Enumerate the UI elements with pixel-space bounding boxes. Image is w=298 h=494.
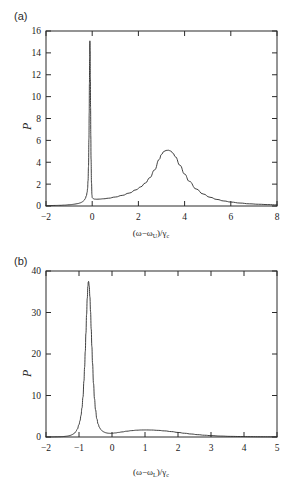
data-curve — [46, 281, 277, 437]
panel-a-x-axis-label: (ω−ωU)/γc — [96, 228, 206, 239]
panel-b: (b) P −2−1012345010203040 (ω−ωL)/γc — [0, 247, 298, 494]
panel-a-plot: −2024680246810121416 — [0, 0, 298, 247]
svg-text:2: 2 — [176, 443, 181, 453]
svg-text:0: 0 — [110, 443, 115, 453]
svg-text:1: 1 — [143, 443, 148, 453]
data-curve — [46, 41, 277, 206]
svg-text:12: 12 — [32, 70, 42, 80]
svg-text:8: 8 — [36, 114, 41, 124]
svg-text:4: 4 — [182, 212, 187, 222]
svg-text:30: 30 — [32, 308, 42, 318]
svg-text:0: 0 — [36, 201, 41, 211]
svg-text:10: 10 — [32, 92, 42, 102]
svg-text:10: 10 — [32, 391, 42, 401]
svg-text:8: 8 — [275, 212, 280, 222]
svg-text:16: 16 — [32, 26, 42, 36]
svg-text:3: 3 — [209, 443, 214, 453]
svg-text:0: 0 — [90, 212, 95, 222]
svg-text:6: 6 — [228, 212, 233, 222]
svg-text:5: 5 — [275, 443, 280, 453]
panel-b-plot: −2−1012345010203040 — [0, 247, 298, 494]
svg-text:40: 40 — [32, 266, 42, 276]
svg-text:−2: −2 — [41, 443, 51, 453]
svg-text:2: 2 — [36, 180, 41, 190]
svg-text:4: 4 — [242, 443, 247, 453]
svg-text:6: 6 — [36, 136, 41, 146]
svg-text:14: 14 — [32, 48, 42, 58]
svg-text:−1: −1 — [74, 443, 84, 453]
svg-text:4: 4 — [36, 158, 41, 168]
svg-text:2: 2 — [136, 212, 141, 222]
panel-b-x-axis-label: (ω−ωL)/γc — [96, 467, 206, 478]
svg-text:20: 20 — [32, 349, 42, 359]
panel-a: (a) P −2024680246810121416 (ω−ωU)/γc — [0, 0, 298, 247]
svg-text:−2: −2 — [41, 212, 51, 222]
svg-text:0: 0 — [36, 432, 41, 442]
